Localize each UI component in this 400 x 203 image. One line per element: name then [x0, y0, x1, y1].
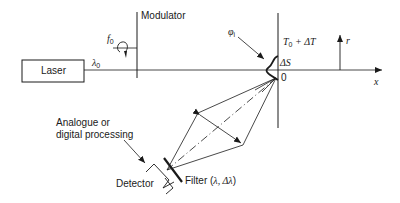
origin-label: 0: [281, 73, 287, 83]
rotation-icon: [118, 42, 128, 58]
collection-optics: [167, 78, 276, 170]
processing-label-line2: digital processing: [56, 130, 133, 140]
angle-label: φi: [228, 27, 235, 38]
detector-label: Detector: [116, 179, 154, 189]
x-axis-label: x: [374, 77, 378, 87]
frequency-label: f0: [107, 34, 114, 45]
delta-s-label: ΔS: [280, 58, 291, 68]
incidence-angle-arrow: [238, 37, 264, 59]
filter: [164, 158, 182, 182]
r-axis-label: r: [346, 36, 350, 46]
diagram-canvas: [0, 0, 400, 203]
filter-label: Filter (λ, Δλ): [185, 176, 236, 186]
processing-label-line1: Analogue or: [56, 118, 110, 128]
wavelength-label: λ0: [92, 58, 100, 69]
lens-aperture-arrow: [200, 115, 241, 143]
modulator-label: Modulator: [141, 11, 185, 21]
temperature-label: T0 + ΔT: [283, 37, 316, 48]
surface-deformation: [267, 56, 278, 80]
laser-label: Laser: [41, 66, 66, 76]
processing-arrow: [124, 140, 145, 163]
